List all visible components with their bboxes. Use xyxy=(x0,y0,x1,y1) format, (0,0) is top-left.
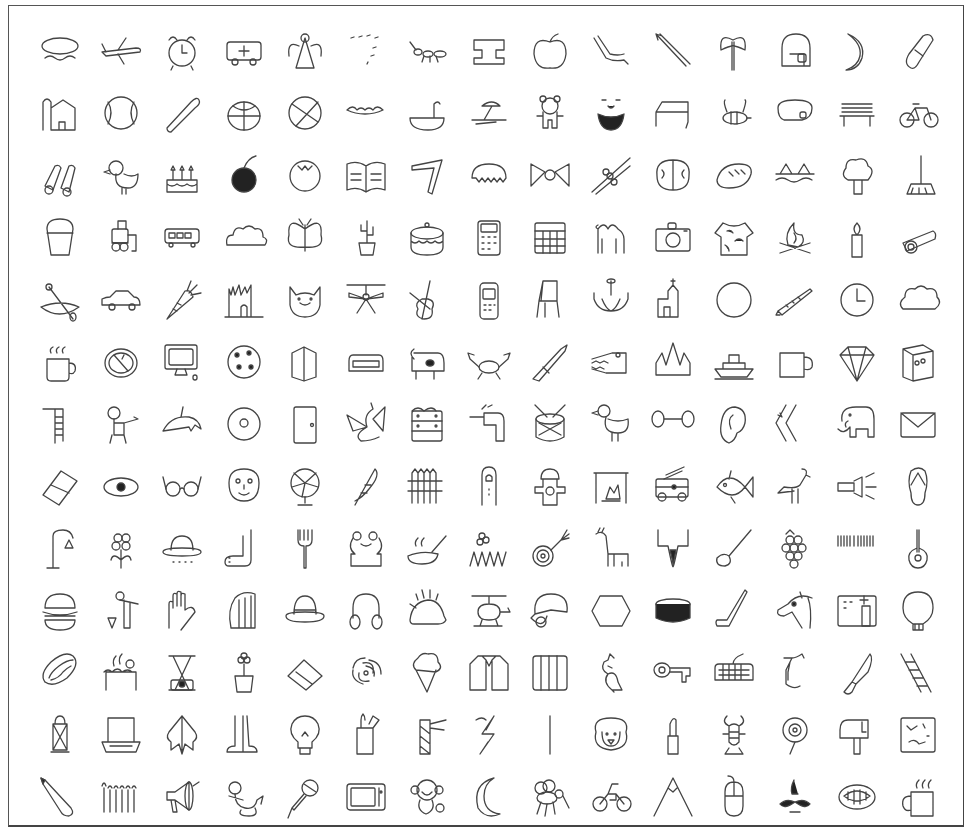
sketch-animal-migration: animal migration xyxy=(335,20,396,82)
fork-icon xyxy=(282,526,328,572)
sketch-guitar: guitar xyxy=(887,518,948,580)
baseball-bat-icon xyxy=(159,90,205,136)
cell-phone-icon xyxy=(466,277,512,323)
knife-icon xyxy=(834,650,880,696)
alarm-clock-icon xyxy=(159,28,205,74)
sketch-camel: camel xyxy=(581,207,642,269)
sketch-lollipop: lollipop xyxy=(765,704,826,766)
golf-club-icon xyxy=(711,526,757,572)
sketch-baseball: baseball xyxy=(90,82,151,144)
sketch-helicopter: helicopter xyxy=(458,580,519,642)
sketch-mermaid: mermaid xyxy=(213,766,274,828)
dog-icon xyxy=(98,401,144,447)
clock-icon xyxy=(834,277,880,323)
sketch-lipstick: lipstick xyxy=(642,704,703,766)
sketch-envelope: envelope xyxy=(887,393,948,455)
sketch-cup: cup xyxy=(765,331,826,393)
sketch-church: church xyxy=(642,269,703,331)
frying-pan-icon xyxy=(404,526,450,572)
moustache-icon xyxy=(772,774,818,820)
sketch-key: key xyxy=(642,642,703,704)
garden-icon xyxy=(466,526,512,572)
sketch-door: door xyxy=(274,393,335,455)
sketch-anvil: anvil xyxy=(458,20,519,82)
hat-icon xyxy=(282,588,328,634)
sketch-airplane: airplane xyxy=(90,20,151,82)
church-icon xyxy=(650,277,696,323)
crocodile-icon xyxy=(588,339,634,385)
clarinet-icon xyxy=(772,277,818,323)
sketch-chair: chair xyxy=(519,269,580,331)
sketch-camouflage: camouflage xyxy=(703,207,764,269)
hedgehog-icon xyxy=(404,588,450,634)
lobster-icon xyxy=(711,712,757,758)
sketch-bear: bear xyxy=(519,82,580,144)
sketch-cow: cow xyxy=(397,331,458,393)
sketch-hammer: hammer xyxy=(90,580,151,642)
sketch-hospital: hospital xyxy=(826,580,887,642)
sketch-computer: computer xyxy=(152,331,213,393)
calendar-icon xyxy=(527,215,573,261)
sketch-mouse: mouse xyxy=(703,766,764,828)
cow-icon xyxy=(404,339,450,385)
crayon-icon xyxy=(527,339,573,385)
fire-hydrant-icon xyxy=(527,463,573,509)
face-icon xyxy=(221,463,267,509)
matches-icon xyxy=(98,774,144,820)
compass-icon xyxy=(98,339,144,385)
sketch-bandage: bandage xyxy=(887,20,948,82)
crab-icon xyxy=(466,339,512,385)
guitar-icon xyxy=(895,526,941,572)
mouse-icon xyxy=(711,774,757,820)
sketch-dishwasher: dishwasher xyxy=(887,331,948,393)
sketch-matches: matches xyxy=(90,766,151,828)
sketch-microwave: microwave xyxy=(335,766,396,828)
sketch-castle: castle xyxy=(213,269,274,331)
sketch-baseball-bat: baseball bat xyxy=(152,82,213,144)
sketch-bird: bird xyxy=(90,144,151,206)
sketch-cactus: cactus xyxy=(335,207,396,269)
sketch-basket: basket xyxy=(213,82,274,144)
sketch-coffee-cup: coffee cup xyxy=(29,331,90,393)
sketch-carrot: carrot xyxy=(152,269,213,331)
sketch-monkey: monkey xyxy=(397,766,458,828)
sketch-garden-hose: garden hose xyxy=(519,518,580,580)
sketch-cooler: cooler xyxy=(274,331,335,393)
sketch-bracelet: bracelet xyxy=(581,144,642,206)
sketch-garden: garden xyxy=(458,518,519,580)
sketch-hourglass: hourglass xyxy=(152,642,213,704)
laptop-icon xyxy=(98,712,144,758)
foot-icon xyxy=(221,526,267,572)
sketch-chandelier: chandelier xyxy=(581,269,642,331)
hourglass-icon xyxy=(159,650,205,696)
sketch-lighter: lighter xyxy=(335,704,396,766)
bed-icon xyxy=(650,90,696,136)
helicopter-icon xyxy=(466,588,512,634)
bird-icon xyxy=(98,152,144,198)
sketch-mailbox: mailbox xyxy=(826,704,887,766)
drums-icon xyxy=(527,401,573,447)
computer-icon xyxy=(159,339,205,385)
sketch-laptop: laptop xyxy=(90,704,151,766)
sketch-line: line xyxy=(519,704,580,766)
barn-icon xyxy=(37,90,83,136)
sketch-motorbike: motorbike xyxy=(581,766,642,828)
sketch-lightning: lightning xyxy=(458,704,519,766)
sketch-clock: clock xyxy=(826,269,887,331)
mountain-icon xyxy=(650,774,696,820)
crown-icon xyxy=(650,339,696,385)
dragon-icon xyxy=(343,401,389,447)
sketch-marker: marker xyxy=(29,766,90,828)
ice-cream-icon xyxy=(404,650,450,696)
flip-flops-icon xyxy=(895,463,941,509)
sketch-knife: knife xyxy=(826,642,887,704)
bear-icon xyxy=(527,90,573,136)
sketch-fire-hydrant: fire hydrant xyxy=(519,455,580,517)
sketch-car: car xyxy=(90,269,151,331)
bathtub-icon xyxy=(404,90,450,136)
beard-icon xyxy=(588,90,634,136)
bread-icon xyxy=(711,152,757,198)
lipstick-icon xyxy=(650,712,696,758)
sketch-bathtub: bathtub xyxy=(397,82,458,144)
airplane-boat-icon xyxy=(37,28,83,74)
